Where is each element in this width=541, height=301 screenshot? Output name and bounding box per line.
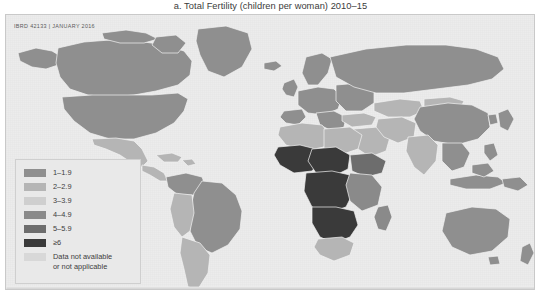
region-asia (406, 103, 528, 191)
country-russia (330, 45, 504, 93)
island-philippines (484, 143, 498, 161)
legend-swatch-2 (24, 183, 46, 191)
legend-label-5: 5–5.9 (53, 223, 72, 234)
legend-swatch-1 (24, 169, 46, 177)
island-hispaniola (182, 159, 196, 166)
region-scandinavia (302, 53, 332, 85)
legend-item-6: ≥6 (16, 237, 140, 251)
legend-swatch-3 (24, 197, 46, 205)
country-australia (442, 207, 510, 255)
region-east-africa (346, 173, 382, 211)
region-antarctica (6, 287, 535, 290)
region-western-europe (298, 87, 342, 115)
region-oceania (442, 207, 534, 265)
country-turkey (342, 113, 376, 127)
region-iberia (280, 109, 306, 125)
country-japan (498, 109, 514, 131)
legend-item-2: 2–2.9 (16, 181, 140, 195)
legend-label-4: 4–4.9 (53, 209, 72, 220)
country-greenland (196, 26, 252, 77)
country-india (406, 135, 438, 175)
legend-label-6: ≥6 (53, 237, 61, 248)
legend-item-1: 1–1.9 (16, 167, 140, 181)
legend-label-1: 1–1.9 (53, 167, 72, 178)
country-peru-bolivia (170, 193, 194, 237)
country-madagascar (374, 205, 392, 231)
region-southeast-asia (442, 143, 470, 171)
map-panel: IBRD 42133 | JANUARY 2016 (5, 14, 535, 290)
legend-label-3: 3–3.9 (53, 195, 72, 206)
legend-item-3: 3–3.9 (16, 195, 140, 209)
island-new-guinea (502, 177, 528, 191)
region-north-america (18, 26, 252, 181)
islands-caribbean (156, 153, 182, 162)
country-iceland (264, 61, 282, 71)
ibrd-credit-label: IBRD 42133 | JANUARY 2016 (14, 23, 95, 29)
legend-swatch-4 (24, 211, 46, 219)
figure-title: a. Total Fertility (children per woman) … (0, 0, 541, 13)
region-central-america (142, 165, 168, 181)
legend-item-5: 5–5.9 (16, 223, 140, 237)
country-south-africa (314, 237, 354, 261)
country-new-zealand (520, 243, 534, 265)
legend-swatch-5 (24, 225, 46, 233)
legend-item-4: 4–4.9 (16, 209, 140, 223)
region-south-america (166, 173, 242, 289)
region-korea (488, 114, 498, 125)
map-legend: 1–1.9 2–2.9 3–3.9 4–4.9 5–5.9 ≥6 Data no… (15, 159, 141, 284)
legend-label-no-data: Data not available or not applicable (53, 251, 112, 271)
legend-label-2: 2–2.9 (53, 181, 72, 192)
legend-swatch-no-data (24, 253, 46, 261)
island-tasmania (488, 256, 500, 265)
legend-swatch-6 (24, 239, 46, 247)
country-alaska (18, 48, 62, 69)
country-uk-ireland (282, 79, 298, 97)
country-united-states (62, 93, 188, 139)
region-indonesia (450, 175, 506, 189)
legend-item-no-data: Data not available or not applicable (16, 251, 140, 275)
